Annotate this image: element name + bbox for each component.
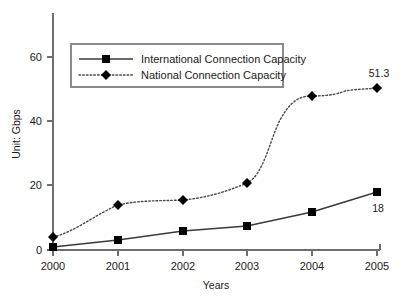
series-national-connection-capacity: 51.3: [48, 67, 389, 242]
legend-marker-square: [102, 55, 110, 63]
international-marker-2001: [114, 236, 122, 244]
y-tick-label-20: 20: [30, 179, 42, 191]
national-marker-2001: [113, 200, 123, 210]
x-tick-label-2004: 2004: [300, 260, 324, 272]
international-line: [53, 192, 377, 247]
chart-container: 0 20 40 60 2000 2001 2002 2003 2004 2005…: [0, 0, 405, 298]
x-tick-label-2005: 2005: [365, 260, 389, 272]
national-marker-2003: [242, 178, 252, 188]
legend-label-national: National Connection Capacity: [141, 69, 286, 81]
international-marker-2000: [49, 243, 57, 251]
y-tick-label-60: 60: [30, 51, 42, 63]
y-tick-label-40: 40: [30, 115, 42, 127]
x-tick-label-2002: 2002: [171, 260, 195, 272]
national-end-value-label: 51.3: [369, 67, 390, 79]
national-marker-2004: [307, 91, 317, 101]
international-marker-2003: [243, 222, 251, 230]
y-axis-title: Unit: Gbps: [10, 109, 22, 159]
national-line: [53, 88, 377, 237]
international-marker-2004: [308, 208, 316, 216]
x-tick-label-2003: 2003: [235, 260, 259, 272]
national-marker-2002: [178, 195, 188, 205]
x-tick-label-2000: 2000: [41, 260, 65, 272]
x-tick-group: 2000 2001 2002 2003 2004 2005: [41, 250, 389, 272]
international-end-value-label: 18: [372, 202, 384, 214]
international-marker-2002: [179, 227, 187, 235]
legend: International Connection Capacity Nation…: [71, 44, 307, 87]
y-tick-label-0: 0: [36, 244, 42, 256]
international-marker-2005: [373, 188, 381, 196]
series-international-connection-capacity: 18: [49, 188, 384, 251]
x-tick-label-2001: 2001: [106, 260, 130, 272]
national-marker-2005: [372, 83, 382, 93]
x-axis-title: Years: [203, 279, 229, 291]
legend-label-international: International Connection Capacity: [141, 53, 307, 65]
line-chart: 0 20 40 60 2000 2001 2002 2003 2004 2005…: [0, 0, 405, 298]
national-marker-2000: [48, 232, 58, 242]
y-tick-group: 0 20 40 60: [30, 51, 53, 256]
